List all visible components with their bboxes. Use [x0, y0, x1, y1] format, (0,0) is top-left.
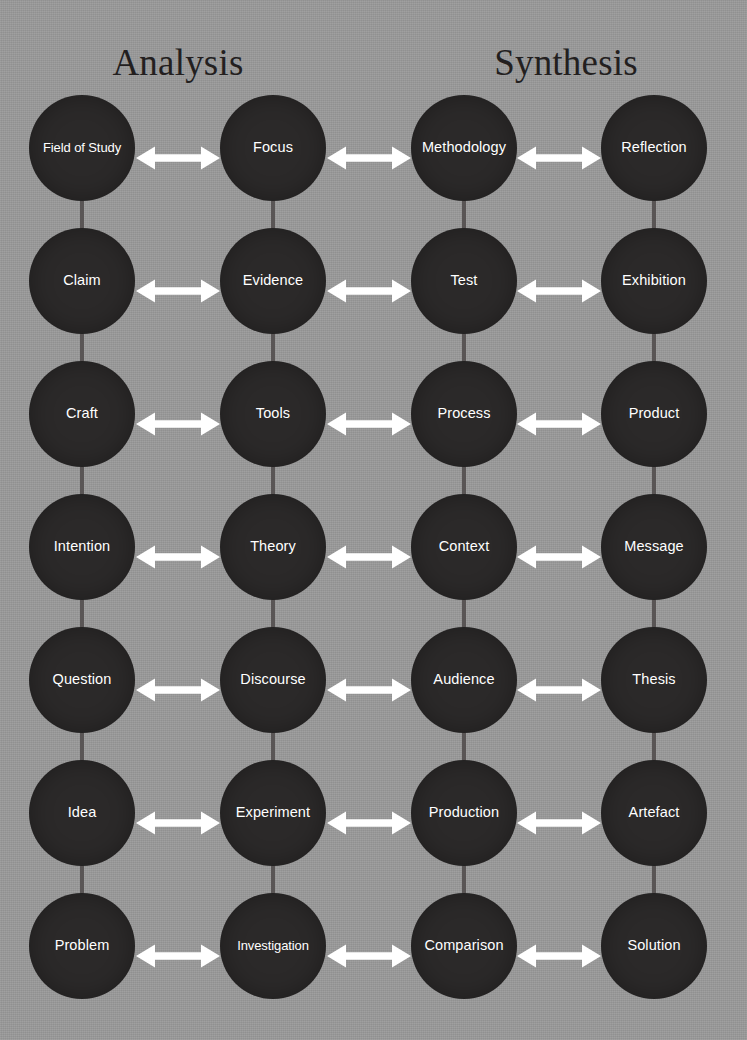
node-evidence[interactable]: Evidence [220, 228, 326, 334]
double-headed-arrow-icon-comparison-to-solution [517, 943, 601, 969]
node-product[interactable]: Product [601, 361, 707, 467]
vertical-connector-c2-r2 [462, 463, 466, 498]
node-idea[interactable]: Idea [29, 760, 135, 866]
node-audience[interactable]: Audience [411, 627, 517, 733]
node-label: Reflection [619, 140, 688, 156]
diagram-canvas: Analysis Synthesis Field of StudyFocusMe… [0, 0, 747, 1040]
node-thesis[interactable]: Thesis [601, 627, 707, 733]
node-label: Evidence [241, 273, 305, 289]
vertical-connector-c1-r1 [271, 330, 275, 365]
node-focus[interactable]: Focus [220, 95, 326, 201]
double-headed-arrow-icon-production-to-artefact [517, 810, 601, 836]
node-label: Comparison [422, 938, 505, 954]
vertical-connector-c2-r5 [462, 862, 466, 897]
node-label: Investigation [235, 939, 311, 953]
node-message[interactable]: Message [601, 494, 707, 600]
vertical-connector-c0-r4 [80, 729, 84, 764]
node-label: Intention [52, 539, 113, 555]
node-label: Focus [251, 140, 295, 156]
node-label: Problem [53, 938, 112, 954]
node-label: Craft [64, 406, 100, 422]
node-exhibition[interactable]: Exhibition [601, 228, 707, 334]
node-theory[interactable]: Theory [220, 494, 326, 600]
node-label: Thesis [630, 672, 677, 688]
node-artefact[interactable]: Artefact [601, 760, 707, 866]
node-question[interactable]: Question [29, 627, 135, 733]
node-context[interactable]: Context [411, 494, 517, 600]
vertical-connector-c1-r0 [271, 197, 275, 232]
node-label: Experiment [234, 805, 312, 821]
vertical-connector-c3-r0 [652, 197, 656, 232]
vertical-connector-c0-r0 [80, 197, 84, 232]
double-headed-arrow-icon-context-to-message [517, 544, 601, 570]
double-headed-arrow-icon-experiment-to-production [327, 810, 411, 836]
node-label: Field of Study [41, 141, 123, 155]
node-intention[interactable]: Intention [29, 494, 135, 600]
double-headed-arrow-icon-idea-to-experiment [136, 810, 220, 836]
node-label: Solution [625, 938, 682, 954]
node-methodology[interactable]: Methodology [411, 95, 517, 201]
double-headed-arrow-icon-question-to-discourse [136, 677, 220, 703]
double-headed-arrow-icon-claim-to-evidence [136, 278, 220, 304]
node-experiment[interactable]: Experiment [220, 760, 326, 866]
node-label: Audience [431, 672, 496, 688]
vertical-connector-c3-r3 [652, 596, 656, 631]
vertical-connector-c0-r3 [80, 596, 84, 631]
vertical-connector-c1-r3 [271, 596, 275, 631]
node-solution[interactable]: Solution [601, 893, 707, 999]
double-headed-arrow-icon-investigation-to-comparison [327, 943, 411, 969]
node-label: Context [437, 539, 492, 555]
node-label: Methodology [420, 140, 508, 156]
node-label: Message [622, 539, 686, 555]
double-headed-arrow-icon-process-to-product [517, 411, 601, 437]
node-label: Question [51, 672, 114, 688]
vertical-connector-c2-r1 [462, 330, 466, 365]
node-label: Process [435, 406, 492, 422]
double-headed-arrow-icon-field-of-study-to-focus [136, 145, 220, 171]
node-label: Theory [248, 539, 298, 555]
double-headed-arrow-icon-methodology-to-reflection [517, 145, 601, 171]
vertical-connector-c3-r1 [652, 330, 656, 365]
node-label: Exhibition [620, 273, 688, 289]
node-process[interactable]: Process [411, 361, 517, 467]
node-tools[interactable]: Tools [220, 361, 326, 467]
node-comparison[interactable]: Comparison [411, 893, 517, 999]
double-headed-arrow-icon-problem-to-investigation [136, 943, 220, 969]
node-investigation[interactable]: Investigation [220, 893, 326, 999]
vertical-connector-c3-r2 [652, 463, 656, 498]
node-label: Discourse [238, 672, 307, 688]
vertical-connector-c1-r4 [271, 729, 275, 764]
double-headed-arrow-icon-test-to-exhibition [517, 278, 601, 304]
double-headed-arrow-icon-focus-to-methodology [327, 145, 411, 171]
node-test[interactable]: Test [411, 228, 517, 334]
vertical-connector-c2-r3 [462, 596, 466, 631]
node-reflection[interactable]: Reflection [601, 95, 707, 201]
node-problem[interactable]: Problem [29, 893, 135, 999]
node-label: Product [627, 406, 682, 422]
node-craft[interactable]: Craft [29, 361, 135, 467]
vertical-connector-c2-r4 [462, 729, 466, 764]
node-discourse[interactable]: Discourse [220, 627, 326, 733]
node-field-of-study[interactable]: Field of Study [29, 95, 135, 201]
vertical-connector-c1-r2 [271, 463, 275, 498]
node-production[interactable]: Production [411, 760, 517, 866]
double-headed-arrow-icon-discourse-to-audience [327, 677, 411, 703]
vertical-connector-c0-r2 [80, 463, 84, 498]
section-header-synthesis: Synthesis [494, 44, 638, 81]
vertical-connector-c1-r5 [271, 862, 275, 897]
vertical-connector-c3-r4 [652, 729, 656, 764]
double-headed-arrow-icon-tools-to-process [327, 411, 411, 437]
double-headed-arrow-icon-craft-to-tools [136, 411, 220, 437]
vertical-connector-c0-r1 [80, 330, 84, 365]
vertical-connector-c3-r5 [652, 862, 656, 897]
double-headed-arrow-icon-audience-to-thesis [517, 677, 601, 703]
vertical-connector-c2-r0 [462, 197, 466, 232]
node-label: Production [427, 805, 501, 821]
node-label: Test [449, 273, 480, 289]
node-label: Idea [66, 805, 99, 821]
node-label: Artefact [627, 805, 682, 821]
node-claim[interactable]: Claim [29, 228, 135, 334]
double-headed-arrow-icon-evidence-to-test [327, 278, 411, 304]
node-label: Tools [254, 406, 292, 422]
double-headed-arrow-icon-theory-to-context [327, 544, 411, 570]
